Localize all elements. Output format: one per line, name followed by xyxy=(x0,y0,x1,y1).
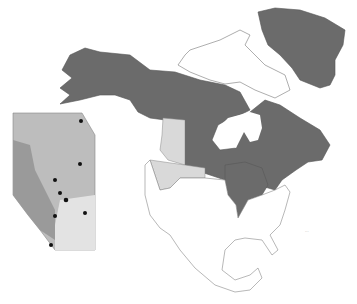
north-america-map xyxy=(0,0,357,304)
western-range-light xyxy=(160,118,185,165)
alberta-inset xyxy=(13,113,95,250)
site-marker xyxy=(64,198,69,203)
site-marker xyxy=(79,119,83,123)
site-marker xyxy=(53,214,57,218)
scale-label: ... xyxy=(305,228,309,233)
site-marker xyxy=(53,178,57,182)
site-marker xyxy=(58,191,62,195)
site-marker xyxy=(49,243,53,247)
site-marker xyxy=(78,162,82,166)
site-marker xyxy=(83,211,87,215)
